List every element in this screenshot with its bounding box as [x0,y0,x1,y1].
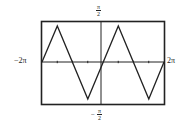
y-min-denominator: 2 [97,115,102,121]
y-min-sign: − [91,112,95,119]
y-max-numerator: π [96,4,101,11]
x-max-label: 2π [167,57,175,65]
y-min-numerator: π [97,108,102,115]
y-min-label: − π 2 [92,108,102,121]
y-max-label: π 2 [96,4,101,17]
y-max-denominator: 2 [96,11,101,17]
x-min-label: −2π [14,57,27,65]
